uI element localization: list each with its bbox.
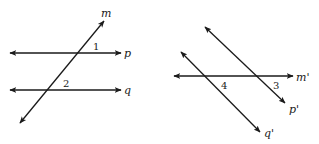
angle-3-label: 3	[273, 80, 279, 91]
angle-2-label: 2	[63, 78, 69, 89]
label-q-prime: q'	[264, 127, 274, 140]
line-q-prime	[181, 52, 260, 132]
line-m	[20, 21, 104, 123]
parallel-lines-diagram: p q m 1 2 m' p' q' 3 4	[0, 0, 319, 144]
label-p: p	[124, 47, 131, 60]
angle-4-label: 4	[221, 80, 227, 91]
figure-right: m' p' q' 3 4	[174, 27, 309, 140]
line-p-prime	[205, 27, 285, 103]
figure-left: p q m 1 2	[10, 7, 131, 123]
label-m-prime: m'	[296, 71, 309, 84]
angle-1-label: 1	[93, 41, 99, 52]
label-m: m	[101, 7, 111, 20]
label-q: q	[124, 84, 131, 97]
label-p-prime: p'	[289, 103, 299, 116]
